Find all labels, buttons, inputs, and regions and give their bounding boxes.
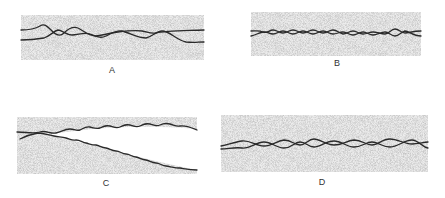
panel-label-a: A bbox=[109, 65, 115, 75]
panel-a bbox=[21, 15, 204, 60]
figure-canvas bbox=[0, 0, 445, 198]
panel-d bbox=[221, 115, 428, 172]
panel-label-d: D bbox=[319, 177, 326, 187]
panel-b bbox=[251, 12, 421, 56]
panel-c bbox=[17, 117, 197, 174]
panel-label-b: B bbox=[334, 58, 340, 68]
panel-label-c: C bbox=[103, 178, 110, 188]
